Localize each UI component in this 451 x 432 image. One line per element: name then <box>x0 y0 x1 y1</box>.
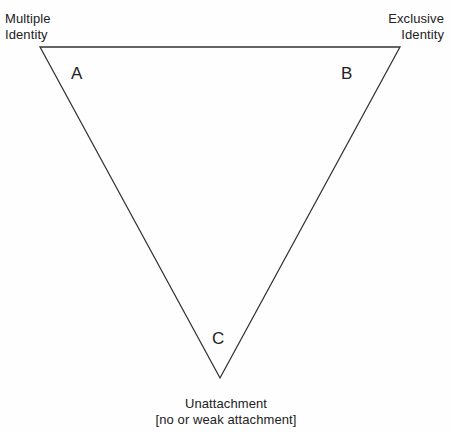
corner-label-multiple-identity-line2: Identity <box>5 27 51 43</box>
vertex-letter-b: B <box>341 65 352 82</box>
vertex-letter-a: A <box>71 65 82 82</box>
corner-label-unattachment-line1: Unattachment <box>1 396 451 412</box>
corner-label-unattachment: Unattachment [no or weak attachment] <box>0 396 451 427</box>
corner-label-multiple-identity: Multiple Identity <box>5 11 51 42</box>
corner-label-multiple-identity-line1: Multiple <box>5 11 51 27</box>
corner-label-exclusive-identity-line1: Exclusive <box>388 11 444 27</box>
vertex-letter-c: C <box>212 330 224 347</box>
corner-label-unattachment-line2: [no or weak attachment] <box>1 412 451 428</box>
triangle-diagram-figure: Multiple Identity Exclusive Identity Una… <box>0 0 451 432</box>
corner-label-exclusive-identity: Exclusive Identity <box>388 11 444 42</box>
corner-label-exclusive-identity-line2: Identity <box>388 27 444 43</box>
triangle-shape <box>0 0 451 432</box>
